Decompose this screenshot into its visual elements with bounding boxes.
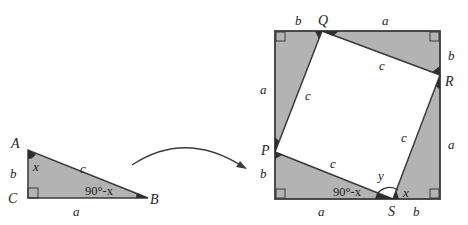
point-label-q: Q xyxy=(318,13,328,28)
top-label-b: b xyxy=(295,13,302,28)
right-label-b: b xyxy=(448,48,455,63)
side-label-c: c xyxy=(80,161,86,176)
angle-label-90-minus-x: 90°-x xyxy=(333,185,362,199)
transform-arrow xyxy=(132,148,247,169)
right-label-a: a xyxy=(448,137,455,152)
angle-label-90-minus-x: 90°-x xyxy=(85,184,114,198)
small-triangle: A B C b c a x 90°-x xyxy=(8,136,159,219)
vertex-label-b: B xyxy=(150,192,159,207)
arrowhead-icon xyxy=(236,161,247,169)
square-figure: Q R S P b a b a a b a b c c c c 90°-x y … xyxy=(260,13,455,219)
angle-label-y: y xyxy=(376,168,384,183)
left-label-a: a xyxy=(260,82,267,97)
bottom-label-b: b xyxy=(413,204,420,219)
point-label-r: R xyxy=(444,74,454,89)
left-label-b: b xyxy=(260,166,267,181)
pythagorean-diagram: A B C b c a x 90°-x Q R S P xyxy=(0,0,468,225)
point-label-p: P xyxy=(260,143,270,158)
bottom-label-a: a xyxy=(318,204,325,219)
inner-label-c-rs: c xyxy=(401,130,407,145)
inner-label-c-pq: c xyxy=(305,88,311,103)
vertex-label-a: A xyxy=(10,136,20,151)
point-label-s: S xyxy=(388,204,395,219)
side-label-b: b xyxy=(10,166,17,181)
side-label-a: a xyxy=(73,204,80,219)
angle-label-x: x xyxy=(402,185,409,200)
vertex-label-c: C xyxy=(8,191,18,206)
angle-mark-b xyxy=(136,193,148,198)
angle-label-x: x xyxy=(32,159,39,174)
top-label-a: a xyxy=(382,13,389,28)
inner-label-c-ps: c xyxy=(330,156,336,171)
inner-label-c-qr: c xyxy=(379,58,385,73)
